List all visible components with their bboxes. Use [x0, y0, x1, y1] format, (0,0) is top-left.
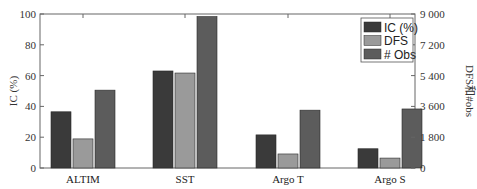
bar-obs — [300, 110, 320, 168]
bar-ic — [358, 149, 378, 168]
y-axis-title-left: IC (%) — [7, 76, 20, 107]
legend-label: DFS — [384, 34, 408, 48]
legend: IC (%)DFS# Obs — [361, 18, 418, 62]
bar-dfs — [73, 139, 93, 168]
y-tick-label-right: 7 200 — [420, 39, 445, 51]
x-category-label: Argo T — [272, 173, 304, 185]
legend-label: IC (%) — [384, 21, 418, 35]
legend-label: # Obs — [384, 48, 416, 62]
bar-dfs — [175, 73, 195, 168]
bar-dfs — [380, 158, 400, 168]
legend-swatch — [364, 49, 381, 59]
bar-obs — [197, 17, 217, 168]
bar-ic — [256, 135, 276, 168]
bar-obs — [402, 109, 422, 168]
x-category-label: SST — [176, 173, 195, 185]
bar-obs — [95, 90, 115, 168]
y-axis-title-right: DFS和#obs — [464, 65, 476, 117]
x-category-label: ALTIM — [66, 173, 100, 185]
bar-dfs — [278, 154, 298, 168]
y-tick-label: 20 — [25, 131, 37, 143]
legend-swatch — [364, 22, 381, 32]
y-tick-label: 40 — [25, 100, 37, 112]
bar-ic — [153, 71, 173, 168]
x-category-label: Argo S — [374, 173, 405, 185]
y-tick-label: 80 — [25, 39, 37, 51]
y-tick-label-right: 1 800 — [420, 131, 445, 143]
y-tick-label: 0 — [31, 162, 37, 174]
bar-chart: 020406080100 01 8003 6005 4007 2009 000 … — [0, 0, 477, 189]
legend-swatch — [364, 36, 381, 46]
y-tick-label-right: 3 600 — [420, 100, 445, 112]
x-axis: ALTIMSSTArgo TArgo S — [66, 14, 406, 185]
bar-ic — [51, 112, 71, 168]
y-tick-label-right: 5 400 — [420, 70, 445, 82]
y-tick-label-right: 9 000 — [420, 8, 445, 20]
y-tick-label: 60 — [25, 70, 37, 82]
y-tick-label-right: 0 — [420, 162, 426, 174]
y-tick-label: 100 — [20, 8, 37, 20]
